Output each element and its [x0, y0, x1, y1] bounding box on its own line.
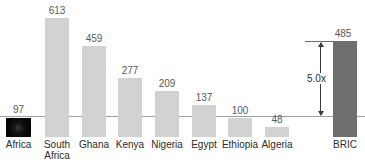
annotation-arrow-head-up: [318, 42, 324, 47]
bar-egypt: [192, 105, 216, 137]
annotation-arrow-head-down: [318, 111, 324, 116]
bar-ghana: [82, 46, 106, 137]
bar-nigeria: [155, 91, 179, 137]
value-label-nigeria: 209: [155, 78, 179, 89]
category-label-egypt: Egypt: [186, 139, 222, 150]
category-label-ethiopia: Ethiopia: [219, 139, 261, 150]
annotation-multiplier-label: 5.0x: [305, 73, 328, 84]
value-label-ghana: 459: [82, 33, 106, 44]
bar-south-africa: [45, 18, 69, 137]
value-label-ethiopia: 100: [228, 105, 252, 116]
value-label-egypt: 137: [192, 92, 216, 103]
category-label-ghana: Ghana: [76, 139, 112, 150]
value-label-south-africa: 613: [45, 5, 69, 16]
category-label-bric: BRIC: [327, 139, 363, 150]
value-label-bric: 485: [331, 28, 355, 39]
category-label-africa: Africa: [0, 139, 37, 150]
bar-chart: 97 613 459 277 209 137 100 48 485 Africa…: [0, 0, 365, 164]
bar-kenya: [118, 78, 142, 137]
bar-africa: [6, 118, 31, 137]
bar-algeria: [265, 127, 289, 137]
value-label-algeria: 48: [265, 114, 289, 125]
category-label-algeria: Algeria: [258, 139, 296, 150]
category-label-kenya: Kenya: [112, 139, 148, 150]
bar-bric: [333, 41, 357, 137]
bar-ethiopia: [228, 118, 252, 137]
category-label-south-africa: South Africa: [39, 139, 75, 161]
value-label-africa: 97: [6, 104, 31, 115]
category-label-nigeria: Nigeria: [147, 139, 187, 150]
value-label-kenya: 277: [118, 65, 142, 76]
